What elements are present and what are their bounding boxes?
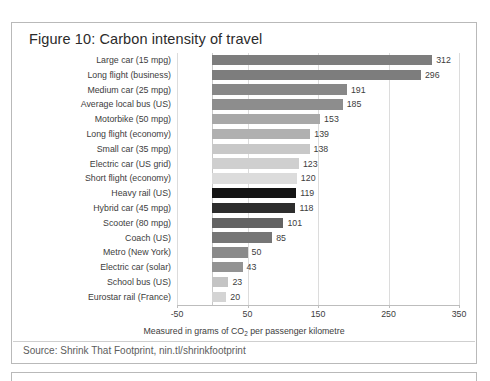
bar-category-label: Metro (New York) [29, 247, 177, 257]
x-axis-tick [248, 305, 249, 308]
figure-container: Figure 10: Carbon intensity of travel La… [11, 22, 477, 364]
source-divider [13, 341, 475, 342]
figure-title: Figure 10: Carbon intensity of travel [29, 31, 262, 47]
bar[interactable] [212, 144, 309, 155]
bar[interactable] [212, 247, 247, 258]
bar[interactable] [212, 173, 297, 184]
bar-row[interactable]: Average local bus (US)185 [29, 97, 459, 111]
next-figure-container [11, 372, 477, 381]
bar-track: 191 [177, 83, 459, 97]
bar-row[interactable]: Medium car (25 mpg)191 [29, 83, 459, 97]
bar-value-label: 85 [272, 233, 286, 243]
bar-track: 185 [177, 97, 459, 111]
x-axis-tick-label: 250 [381, 309, 396, 319]
bar-category-label: Heavy rail (US) [29, 188, 177, 198]
bar-value-label: 20 [226, 292, 240, 302]
bar-value-label: 138 [310, 144, 329, 154]
bar-row[interactable]: Electric car (US grid)123 [29, 157, 459, 171]
bar-value-label: 191 [347, 85, 366, 95]
bar-track: 120 [177, 171, 459, 185]
bar[interactable] [212, 55, 432, 66]
bar-category-label: Long flight (business) [29, 70, 177, 80]
bar-row[interactable]: Coach (US)85 [29, 231, 459, 245]
bar-category-label: Coach (US) [29, 233, 177, 243]
bar-row[interactable]: Short flight (economy)120 [29, 171, 459, 185]
bar-value-label: 296 [421, 70, 440, 80]
bar[interactable] [212, 292, 226, 303]
x-axis-caption: Measured in grams of CO2 per passenger k… [29, 326, 459, 336]
bar-track: 101 [177, 216, 459, 230]
bar-row[interactable]: Motorbike (50 mpg)153 [29, 112, 459, 126]
bar[interactable] [212, 203, 295, 214]
gridline [459, 53, 460, 305]
bar-category-label: Small car (35 mpg) [29, 144, 177, 154]
x-axis-tick [389, 305, 390, 308]
bar-category-label: Long flight (economy) [29, 129, 177, 139]
bar-track: 312 [177, 53, 459, 67]
chart-plot-area: Large car (15 mpg)312Long flight (busine… [29, 53, 459, 321]
bar[interactable] [212, 232, 272, 243]
bar-category-label: Large car (15 mpg) [29, 55, 177, 65]
bar-row[interactable]: Long flight (business)296 [29, 68, 459, 82]
bar[interactable] [212, 158, 299, 169]
bar-category-label: Electric car (solar) [29, 262, 177, 272]
bar-value-label: 50 [248, 247, 262, 257]
bar[interactable] [212, 262, 242, 273]
x-axis-tick-label: 50 [243, 309, 253, 319]
bar-track: 296 [177, 68, 459, 82]
bar-track: 118 [177, 201, 459, 215]
bar-value-label: 185 [343, 99, 362, 109]
bar-row[interactable]: Scooter (80 mpg)101 [29, 216, 459, 230]
x-axis-tick-label: 150 [311, 309, 326, 319]
bar-value-label: 120 [297, 173, 316, 183]
source-note: Source: Shrink That Footprint, nin.tl/sh… [23, 345, 246, 356]
bar-row[interactable]: Large car (15 mpg)312 [29, 53, 459, 67]
bar-track: 20 [177, 290, 459, 304]
x-axis-tick [318, 305, 319, 308]
bar-value-label: 43 [243, 262, 257, 272]
bar-track: 153 [177, 112, 459, 126]
bar-row[interactable]: Eurostar rail (France)20 [29, 290, 459, 304]
bar-category-label: Hybrid car (45 mpg) [29, 203, 177, 213]
bar-row[interactable]: Electric car (solar)43 [29, 260, 459, 274]
x-axis-tick-label: -50 [171, 309, 184, 319]
bar[interactable] [212, 188, 296, 199]
bar-row[interactable]: Metro (New York)50 [29, 245, 459, 259]
bar-row[interactable]: School bus (US)23 [29, 275, 459, 289]
bar-track: 43 [177, 260, 459, 274]
x-axis: -5050150250350 [177, 305, 459, 321]
bar-category-label: Average local bus (US) [29, 99, 177, 109]
bar-value-label: 123 [299, 159, 318, 169]
bar[interactable] [212, 99, 342, 110]
bar-track: 85 [177, 231, 459, 245]
bar-category-label: Short flight (economy) [29, 173, 177, 183]
bar-row[interactable]: Heavy rail (US)119 [29, 186, 459, 200]
bar[interactable] [212, 84, 347, 95]
bar-value-label: 153 [320, 114, 339, 124]
bar-category-label: Scooter (80 mpg) [29, 218, 177, 228]
bar-value-label: 101 [283, 218, 302, 228]
bar-row[interactable]: Hybrid car (45 mpg)118 [29, 201, 459, 215]
bar[interactable] [212, 218, 283, 229]
bar-rows: Large car (15 mpg)312Long flight (busine… [29, 53, 459, 305]
bar-category-label: Medium car (25 mpg) [29, 85, 177, 95]
bar-category-label: Electric car (US grid) [29, 159, 177, 169]
bar-row[interactable]: Long flight (economy)139 [29, 127, 459, 141]
bar-row[interactable]: Small car (35 mpg)138 [29, 142, 459, 156]
bar-category-label: Eurostar rail (France) [29, 292, 177, 302]
bar-value-label: 312 [432, 55, 451, 65]
bar-track: 139 [177, 127, 459, 141]
bar[interactable] [212, 114, 320, 125]
x-axis-tick [459, 305, 460, 308]
bar-value-label: 119 [296, 188, 314, 198]
bar-value-label: 23 [228, 277, 242, 287]
bar-track: 138 [177, 142, 459, 156]
bar-value-label: 118 [295, 203, 313, 213]
bar-track: 50 [177, 245, 459, 259]
bar[interactable] [212, 129, 310, 140]
bar-track: 23 [177, 275, 459, 289]
bar[interactable] [212, 277, 228, 288]
bar-category-label: School bus (US) [29, 277, 177, 287]
bar[interactable] [212, 70, 421, 81]
x-axis-tick [177, 305, 178, 308]
